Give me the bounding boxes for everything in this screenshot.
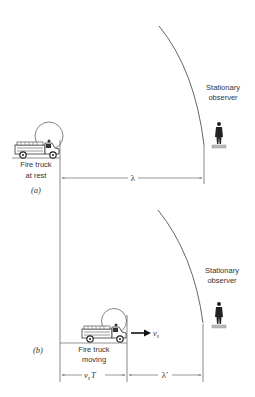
- displacement-label: vsT: [84, 370, 97, 381]
- observer-label-a-line1: Stationary: [206, 83, 240, 92]
- truck-label-b-line1: Fire truck: [78, 345, 110, 354]
- wavelength-label-a: λ: [131, 173, 136, 183]
- wavefront-arc-b: [158, 210, 203, 323]
- caption-b: (b): [33, 345, 43, 355]
- wavefront-arc-a: [159, 26, 204, 145]
- panel-a: Fire truck at rest (a) λ Stationary obse…: [12, 26, 240, 195]
- velocity-arrowhead-icon: [144, 330, 151, 337]
- observer-person-icon-b: [212, 302, 226, 328]
- observer-label-b-line1: Stationary: [205, 266, 239, 275]
- velocity-label: vs: [153, 328, 159, 339]
- doppler-diagram: Fire truck at rest (a) λ Stationary obse…: [0, 0, 255, 397]
- fire-truck-icon-a: [15, 140, 59, 159]
- fire-truck-icon-b: [82, 324, 126, 343]
- wavelength-label-b: λ′: [162, 370, 168, 380]
- truck-label-b-line2: moving: [82, 355, 106, 364]
- observer-person-icon-a: [212, 122, 226, 148]
- truck-label-a-line2: at rest: [26, 171, 48, 180]
- panel-b: vs Fire truck moving (b) vsT λ′ Stationa…: [33, 210, 239, 382]
- truck-label-a-line1: Fire truck: [20, 160, 52, 169]
- caption-a: (a): [31, 185, 41, 195]
- observer-label-b-line2: observer: [207, 276, 237, 285]
- observer-label-a-line2: observer: [208, 93, 238, 102]
